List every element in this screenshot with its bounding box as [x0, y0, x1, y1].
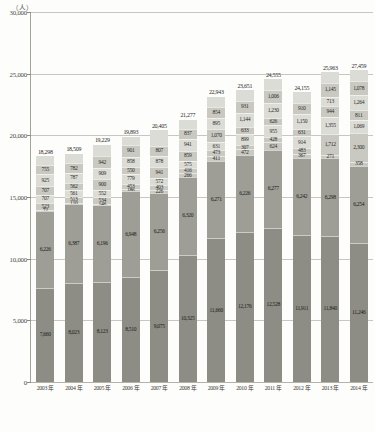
bar-segment: 944	[321, 106, 339, 118]
bar-column[interactable]: 9311,1446338993074726,22612,17623,651	[236, 90, 254, 382]
plot-area: 30,00025,00020,00015,00010,0005,0000 755…	[30, 12, 373, 382]
segment-value-label: 1,230	[268, 108, 279, 114]
bar-segment: 631	[293, 129, 311, 137]
segment-value-label: 6,196	[97, 241, 108, 247]
bar-segment: 624	[264, 142, 282, 150]
bar-segment: 11,840	[321, 236, 339, 382]
segment-value-label: 12,176	[238, 305, 252, 311]
bar-segment: 8,023	[65, 283, 83, 382]
bar-column[interactable]: 8379418595754162666,32010,32521,277	[179, 120, 197, 382]
bar-segment: 1,230	[264, 103, 282, 118]
bar-segment: 1,712	[321, 134, 339, 155]
bar-segment: 6,254	[350, 166, 368, 243]
bar-segment: 707	[36, 186, 54, 195]
segment-value-label: 955	[270, 129, 278, 135]
bar-segment: 854	[207, 107, 225, 118]
segment-value-label: 901	[127, 149, 135, 155]
segment-value-label: 1,069	[353, 125, 364, 131]
bar-segment	[293, 92, 311, 103]
bar-segment: 942	[93, 156, 111, 168]
bar-segment: 2,300	[350, 133, 368, 161]
bar-total-label: 24,155	[294, 85, 309, 91]
bar-column[interactable]: 755925707707523726,2267,66018,298	[36, 156, 54, 382]
segment-value-label: 899	[241, 138, 249, 144]
bar-segment: 6,271	[207, 161, 225, 238]
bar-segment: 811	[350, 110, 368, 120]
bar-segment: 6,196	[93, 205, 111, 281]
bar-segment: 858	[122, 157, 140, 168]
segment-value-label: 779	[127, 176, 135, 182]
segment-value-label: 6,242	[296, 194, 307, 200]
bar-segment: 910	[293, 103, 311, 114]
segment-value-label: 707	[42, 197, 50, 203]
segment-value-label: 7,660	[40, 332, 51, 338]
bar-segment: 914	[293, 136, 311, 147]
y-tick-label: 5,000	[13, 317, 27, 324]
segment-value-label: 914	[298, 140, 306, 146]
bar-total-label: 18,509	[66, 146, 81, 152]
bar-segment: 941	[150, 167, 168, 179]
bar-segment: 713	[321, 97, 339, 106]
bar-segment: 1,006	[264, 90, 282, 102]
segment-value-label: 631	[213, 144, 221, 150]
segment-value-label: 859	[184, 154, 192, 160]
bar-segment	[36, 156, 54, 165]
bar-segment: 1,145	[321, 83, 339, 97]
segment-value-label: 713	[327, 99, 335, 105]
x-axis-label: 2010 年	[236, 383, 253, 392]
bar-total-label: 27,459	[351, 63, 366, 69]
segment-value-label: 6,226	[239, 191, 250, 197]
bar-segment: 925	[36, 174, 54, 185]
segment-value-label: 900	[99, 182, 107, 188]
bar-segment: 8,510	[122, 277, 140, 382]
x-axis-label: 2005 年	[94, 383, 111, 392]
bar-column[interactable]: 8078789415724032266,2569,07520,405	[150, 130, 168, 382]
segment-value-label: 1,006	[268, 94, 279, 100]
segment-value-label: 6,298	[325, 195, 336, 201]
bar-total-label: 18,298	[38, 149, 53, 155]
segment-value-label: 626	[270, 119, 278, 125]
bar-segment	[122, 137, 140, 146]
x-axis-label: 2012 年	[293, 383, 310, 392]
bar-segment	[264, 79, 282, 90]
segment-value-label: 878	[156, 159, 164, 165]
bar-segment: 6,226	[36, 211, 54, 288]
bar-segment: 1,150	[293, 114, 311, 128]
segment-value-label: 909	[99, 171, 107, 177]
bar-total-label: 20,405	[152, 123, 167, 129]
bar-column[interactable]: 9018585507794531866,9488,51019,893	[122, 137, 140, 382]
segment-value-label: 755	[42, 168, 50, 174]
bar-segment: 1,355	[321, 117, 339, 134]
y-tick-label: 15,000	[10, 194, 28, 201]
bar-segment: 909	[93, 168, 111, 179]
bar-column[interactable]: 1,0781,2648111,0692,3003586,25411,24627,…	[350, 70, 368, 382]
segment-value-label: 1,264	[353, 100, 364, 106]
segment-value-label: 787	[70, 176, 78, 182]
bar-column[interactable]: 9101,1506319144833676,24211,91124,155	[293, 92, 311, 382]
bar-segment: 12,528	[264, 228, 282, 383]
segment-value-label: 10,325	[181, 316, 195, 322]
segment-value-label: 6,948	[125, 232, 136, 238]
bar-segment: 6,320	[179, 177, 197, 255]
bar-segment: 859	[179, 151, 197, 162]
bar-total-label: 25,963	[323, 65, 338, 71]
y-tick-mark	[27, 382, 31, 383]
bar-segment: 6,298	[321, 158, 339, 236]
x-axis-label: 2009 年	[208, 383, 225, 392]
bar-segment: 11,911	[293, 235, 311, 382]
y-tick-label: 0	[24, 379, 27, 386]
bar-total-label: 22,943	[209, 89, 224, 95]
segment-value-label: 1,150	[296, 119, 307, 125]
bar-segment	[236, 90, 254, 101]
bar-column[interactable]: 1,1457139441,3551,7122716,29811,84025,96…	[321, 72, 339, 382]
bar-segment: 12,176	[236, 232, 254, 382]
bar-total-label: 19,229	[95, 137, 110, 143]
bar-column[interactable]: 9429099005525341466,1968,12319,229	[93, 145, 111, 382]
bar-group: 755925707707523726,2267,66018,2987827875…	[31, 12, 373, 382]
bar-segment: 955	[264, 125, 282, 137]
bar-column[interactable]: 8548951,0706314734116,27111,66022,943	[207, 97, 225, 382]
segment-value-label: 1,078	[353, 86, 364, 92]
bar-column[interactable]: 7827875625615131106,3878,02318,509	[65, 154, 83, 382]
bar-column[interactable]: 1,0061,2306269554286246,27712,52824,555	[264, 79, 282, 382]
bar-segment	[350, 70, 368, 81]
